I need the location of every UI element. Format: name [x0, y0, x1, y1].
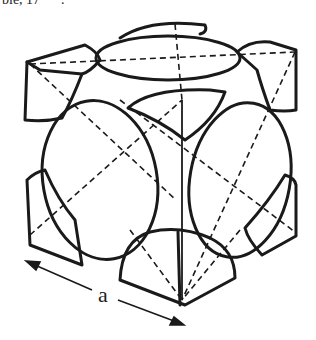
fcc-unit-cell-diagram: [0, 0, 316, 340]
face-diagonals: [30, 24, 295, 300]
face-atom-top: [96, 23, 240, 80]
corner-atom-top-right: [237, 42, 296, 111]
corner-atom-bottom-left: [27, 170, 82, 265]
lattice-constant-label: a: [98, 282, 108, 308]
face-atom-right: [177, 95, 303, 266]
corner-atom-top-left: [25, 45, 100, 121]
